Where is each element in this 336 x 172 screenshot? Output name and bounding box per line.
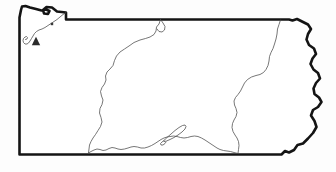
pennsylvania-outline-map [0, 0, 336, 172]
square-marker [51, 23, 53, 25]
map-figure [0, 0, 336, 172]
state-border-outline [20, 6, 322, 155]
